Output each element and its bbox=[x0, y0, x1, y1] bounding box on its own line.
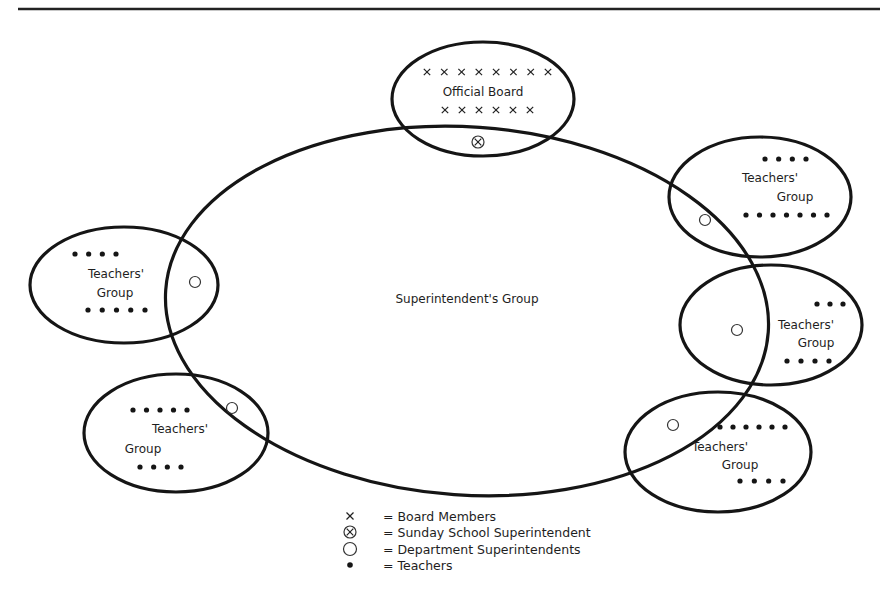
teacher-icon bbox=[737, 478, 742, 483]
teachers-group-label-line1: Teachers' bbox=[691, 440, 748, 454]
board-member-icon bbox=[528, 69, 534, 75]
legend-sunday-superintendent-icon bbox=[344, 526, 356, 538]
teacher-icon bbox=[178, 464, 183, 469]
department-superintendent-icon bbox=[700, 215, 711, 226]
teacher-icon bbox=[770, 212, 775, 217]
teachers-group-label-line1: Teachers' bbox=[151, 422, 208, 436]
board-member-icon bbox=[441, 69, 447, 75]
legend-label: = Sunday School Superintendent bbox=[383, 525, 591, 540]
teacher-icon bbox=[824, 212, 829, 217]
department-superintendent-icon bbox=[190, 277, 201, 288]
teacher-icon bbox=[812, 358, 817, 363]
legend-label: = Board Members bbox=[383, 509, 496, 524]
department-superintendent-icon bbox=[668, 420, 679, 431]
teacher-icon bbox=[171, 407, 176, 412]
teacher-icon bbox=[743, 424, 748, 429]
teacher-icon bbox=[776, 156, 781, 161]
teachers-group-label-line1: Teachers' bbox=[741, 171, 798, 185]
teacher-icon bbox=[128, 307, 133, 312]
board-member-icon bbox=[459, 107, 465, 113]
legend-teacher-icon bbox=[347, 562, 353, 568]
teacher-icon bbox=[811, 212, 816, 217]
legend-department-superintendent-icon bbox=[344, 543, 357, 556]
teacher-icon bbox=[151, 464, 156, 469]
teacher-icon bbox=[803, 156, 808, 161]
teacher-icon bbox=[790, 156, 795, 161]
board-member-icon bbox=[493, 69, 499, 75]
board-member-icon bbox=[476, 107, 482, 113]
sunday-school-superintendent-icon bbox=[472, 136, 484, 148]
teacher-icon bbox=[782, 424, 787, 429]
legend-board-member-icon bbox=[347, 513, 354, 520]
teacher-icon bbox=[730, 424, 735, 429]
teacher-icon bbox=[757, 212, 762, 217]
teacher-icon bbox=[743, 212, 748, 217]
official-board-label: Official Board bbox=[443, 85, 524, 99]
teacher-icon bbox=[72, 251, 77, 256]
teacher-icon bbox=[165, 464, 170, 469]
teacher-icon bbox=[827, 301, 832, 306]
superintendent-group-ellipse bbox=[153, 106, 781, 515]
teacher-icon bbox=[142, 307, 147, 312]
teacher-icon bbox=[780, 478, 785, 483]
teachers-group-right-middle-ellipse bbox=[680, 265, 862, 385]
teacher-icon bbox=[762, 156, 767, 161]
teachers-group-label-line2: Group bbox=[125, 442, 162, 456]
teacher-icon bbox=[756, 424, 761, 429]
teacher-icon bbox=[752, 478, 757, 483]
teachers-group-label-line1: Teachers' bbox=[87, 267, 144, 281]
board-member-icon bbox=[527, 107, 533, 113]
department-superintendent-icon bbox=[732, 325, 743, 336]
teacher-icon bbox=[113, 251, 118, 256]
teacher-icon bbox=[85, 307, 90, 312]
board-member-icon bbox=[510, 69, 516, 75]
teacher-icon bbox=[114, 307, 119, 312]
teacher-icon bbox=[766, 478, 771, 483]
teacher-icon bbox=[184, 407, 189, 412]
teacher-icon bbox=[157, 407, 162, 412]
legend-label: = Teachers bbox=[383, 558, 452, 573]
board-member-icon bbox=[493, 107, 499, 113]
teacher-icon bbox=[798, 358, 803, 363]
teacher-icon bbox=[826, 358, 831, 363]
teacher-icon bbox=[144, 407, 149, 412]
legend-label: = Department Superintendents bbox=[383, 542, 581, 557]
teachers-group-label-line2: Group bbox=[777, 190, 814, 204]
teacher-icon bbox=[100, 307, 105, 312]
teacher-icon bbox=[840, 301, 845, 306]
teacher-icon bbox=[784, 212, 789, 217]
teacher-icon bbox=[717, 424, 722, 429]
board-member-icon bbox=[545, 69, 551, 75]
board-member-icon bbox=[442, 107, 448, 113]
teacher-icon bbox=[130, 407, 135, 412]
department-superintendent-icon bbox=[227, 403, 238, 414]
board-member-icon bbox=[510, 107, 516, 113]
teacher-icon bbox=[784, 358, 789, 363]
teacher-icon bbox=[769, 424, 774, 429]
teachers-group-label-line2: Group bbox=[722, 458, 759, 472]
teacher-icon bbox=[137, 464, 142, 469]
teacher-icon bbox=[814, 301, 819, 306]
teacher-icon bbox=[86, 251, 91, 256]
organization-diagram: Superintendent's Group Official Board Te… bbox=[0, 0, 893, 603]
teachers-group-label-line1: Teachers' bbox=[777, 318, 834, 332]
board-member-icon bbox=[476, 69, 482, 75]
teachers-group-label-line2: Group bbox=[97, 286, 134, 300]
teachers-group-label-line2: Group bbox=[798, 336, 835, 350]
board-member-icon bbox=[424, 69, 430, 75]
superintendent-group-label: Superintendent's Group bbox=[396, 292, 539, 306]
teacher-icon bbox=[797, 212, 802, 217]
teachers-group-right-top-ellipse bbox=[669, 137, 851, 257]
legend: = Board Members= Sunday School Superinte… bbox=[344, 509, 591, 573]
teacher-icon bbox=[100, 251, 105, 256]
board-member-icon bbox=[458, 69, 464, 75]
